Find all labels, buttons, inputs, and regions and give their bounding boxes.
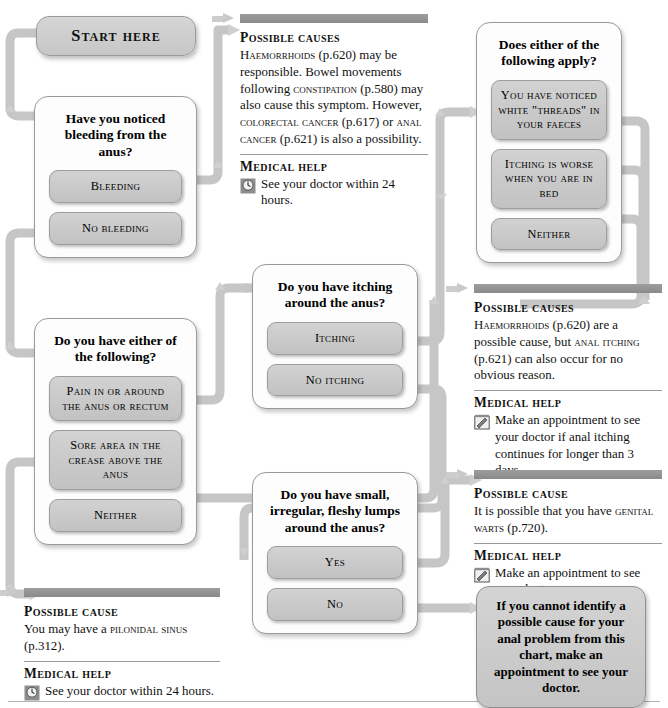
panel-heading: Possible cause	[474, 486, 662, 502]
panel-bleeding-causes: Possible causes Haemorrhoids (p.620) may…	[240, 14, 428, 209]
option-itching-in-bed[interactable]: Itching is worse when you are in bed	[491, 149, 607, 209]
option-bleeding[interactable]: Bleeding	[49, 170, 182, 203]
question-title: Does either of the following apply?	[491, 37, 607, 70]
option-no-bleeding[interactable]: No bleeding	[49, 212, 182, 245]
question-title: Do you have small, irregular, fleshy lum…	[267, 487, 403, 536]
panel-divider	[240, 154, 428, 155]
panel-body: Haemorrhoids (p.620) may be responsible.…	[240, 47, 428, 148]
option-neither-pain[interactable]: Neither	[49, 499, 182, 532]
option-yes-lumps[interactable]: Yes	[267, 546, 403, 579]
panel-header-bar	[240, 14, 428, 23]
question-title: Do you have itching around the anus?	[267, 279, 403, 312]
question-box-threads: Does either of the following apply? You …	[476, 22, 622, 263]
panel-heading: Possible cause	[24, 604, 220, 620]
panel-divider	[474, 543, 662, 544]
panel-divider	[24, 661, 220, 662]
panel-body: You may have a pilonidal sinus (p.312).	[24, 621, 220, 655]
panel-heading: Possible causes	[240, 30, 428, 46]
panel-itching-causes: Possible causes Haemorrhoids (p.620) are…	[474, 284, 662, 479]
option-itching[interactable]: Itching	[267, 322, 403, 355]
option-sore-area-crease[interactable]: Sore area in the crease above the anus	[49, 430, 182, 490]
clock-icon	[240, 178, 256, 198]
panel-help-text: See your doctor within 24 hours.	[261, 176, 428, 210]
start-here-label: Start here	[71, 26, 160, 45]
appointment-icon	[474, 414, 490, 434]
start-here-box: Start here	[36, 16, 196, 56]
question-title: Have you noticed bleeding from the anus?	[49, 111, 182, 160]
advice-box: If you cannot identify a possible cause …	[476, 586, 646, 708]
question-box-lumps: Do you have small, irregular, fleshy lum…	[252, 472, 418, 634]
option-no-lumps[interactable]: No	[267, 588, 403, 621]
appointment-icon	[474, 567, 490, 587]
question-box-pain: Do you have either of the following? Pai…	[34, 318, 197, 545]
advice-text: If you cannot identify a possible cause …	[494, 598, 628, 695]
panel-header-bar	[474, 284, 662, 293]
panel-header-bar	[474, 470, 662, 479]
panel-help-heading: Medical help	[474, 548, 662, 564]
panel-help-heading: Medical help	[24, 666, 220, 682]
panel-pilonidal-cause: Possible cause You may have a pilonidal …	[24, 588, 220, 705]
question-box-itching: Do you have itching around the anus? Itc…	[252, 264, 418, 409]
panel-header-bar	[24, 588, 220, 597]
option-no-itching[interactable]: No itching	[267, 364, 403, 397]
option-white-threads[interactable]: You have noticed white "threads" in your…	[491, 80, 607, 140]
panel-body: Haemorrhoids (p.620) are a possible caus…	[474, 317, 662, 384]
panel-help-heading: Medical help	[240, 159, 428, 175]
panel-help-text: See your doctor within 24 hours.	[45, 683, 214, 700]
panel-heading: Possible causes	[474, 300, 662, 316]
panel-warts-cause: Possible cause It is possible that you h…	[474, 470, 662, 598]
option-pain-anus-rectum[interactable]: Pain in or around the anus or rectum	[49, 376, 182, 421]
question-box-bleeding: Have you noticed bleeding from the anus?…	[34, 96, 197, 258]
panel-help-heading: Medical help	[474, 395, 662, 411]
clock-icon	[24, 685, 40, 705]
panel-body: It is possible that you have genital war…	[474, 503, 662, 537]
panel-divider	[474, 390, 662, 391]
option-neither-threads[interactable]: Neither	[491, 218, 607, 251]
flowchart-canvas: Start here Have you noticed bleeding fro…	[0, 0, 668, 708]
question-title: Do you have either of the following?	[49, 333, 182, 366]
